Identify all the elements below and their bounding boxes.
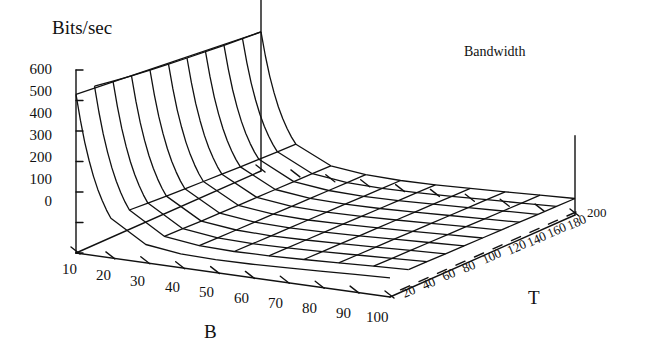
x-tick-label: 40 — [165, 280, 180, 295]
x-tick-label: 100 — [366, 310, 389, 325]
chart-figure: Bits/sec Bandwidth B T 600 500 400 300 2… — [0, 0, 649, 360]
z-tick-label: 600 — [8, 62, 52, 77]
z-tick-label: 500 — [8, 84, 52, 99]
z-tick-label: 300 — [8, 128, 52, 143]
x-tick-label: 10 — [62, 262, 77, 277]
x-tick-label: 70 — [268, 296, 283, 311]
x-tick-label: 20 — [96, 268, 111, 283]
z-axis-title: Bits/sec — [52, 18, 112, 37]
x-axis-title: B — [204, 322, 217, 341]
z-tick-label: 0 — [8, 194, 52, 209]
x-tick-label: 80 — [302, 301, 317, 316]
y-axis-title: T — [528, 288, 540, 307]
z-tick-label: 200 — [8, 150, 52, 165]
plot-title: Bandwidth — [464, 45, 525, 59]
x-tick-label: 60 — [234, 291, 249, 306]
z-tick-label: 100 — [8, 172, 52, 187]
z-tick-label: 400 — [8, 106, 52, 121]
x-tick-label: 90 — [336, 306, 351, 321]
y-tick-label: 200 — [587, 206, 607, 219]
surface-mesh — [76, 32, 575, 278]
surface-plot-canvas — [0, 0, 649, 360]
x-tick-label: 50 — [199, 285, 214, 300]
x-tick-label: 30 — [130, 274, 145, 289]
